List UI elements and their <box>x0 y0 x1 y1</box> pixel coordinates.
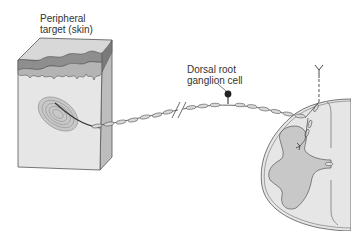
drg-label: Dorsal root ganglion cell <box>187 64 243 86</box>
drg-cell-body <box>225 91 232 104</box>
peripheral-target-label-line2: target (skin) <box>40 24 93 35</box>
drg-label-line1: Dorsal root <box>187 64 243 75</box>
drg-label-line2: ganglion cell <box>187 75 243 86</box>
skin-block <box>18 38 112 170</box>
central-canal <box>325 162 333 165</box>
peripheral-target-label-line1: Peripheral <box>40 13 93 24</box>
spinal-cord <box>261 65 351 231</box>
diagram-canvas: Peripheral target (skin) Dorsal root gan… <box>0 0 351 231</box>
central-axon <box>183 84 318 116</box>
axon-break-marks <box>172 102 186 118</box>
peripheral-target-label: Peripheral target (skin) <box>40 13 93 35</box>
